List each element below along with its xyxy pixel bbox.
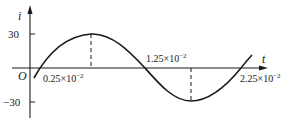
x-axis-label: t (262, 52, 266, 66)
tick-label-30: 30 (8, 28, 20, 40)
x-axis-arrow-icon (259, 66, 268, 71)
origin-label: O (18, 69, 27, 83)
x-annotation-1-25: 1.25×10−2 (146, 52, 187, 64)
sine-current-chart: i t O 30 −30 0.25×10−2 1.25×10−2 2.25×10… (0, 0, 291, 129)
y-axis-label: i (18, 9, 21, 23)
x-annotation-0-25: 0.25×10−2 (43, 72, 84, 84)
x-annotation-2-25: 2.25×10−2 (240, 72, 281, 84)
y-axis-arrow-icon (28, 5, 33, 14)
tick-label-minus-30: −30 (3, 96, 21, 108)
